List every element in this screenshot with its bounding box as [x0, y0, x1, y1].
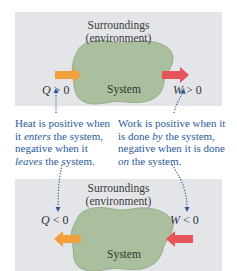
work-symbol: W — [173, 83, 183, 97]
surroundings-line2: (environment) — [15, 195, 222, 208]
heat-symbol: Q — [41, 213, 50, 227]
work-caption-line3: negative when it is done — [118, 142, 225, 155]
heat-caption-line1: Heat is positive when — [15, 117, 110, 130]
work-caption-line2: is done by the system, — [118, 130, 225, 143]
heat-sign-top: Q > 0 — [42, 83, 69, 98]
surroundings-line1: Surroundings — [15, 182, 222, 195]
heat-sign-bottom: Q < 0 — [41, 213, 68, 228]
work-caption-line1: Work is positive when it — [118, 117, 225, 130]
surroundings-label-top: Surroundings (environment) — [15, 19, 222, 45]
heat-caption-line4: leaves the system. — [15, 155, 110, 168]
heat-relation: > 0 — [51, 83, 70, 97]
system-label-top: System — [107, 83, 141, 95]
surroundings-line2: (environment) — [15, 32, 222, 45]
heat-relation: < 0 — [50, 213, 69, 227]
heat-caption: Heat is positive when it enters the syst… — [15, 117, 110, 167]
work-caption-line4: on the system. — [118, 155, 225, 168]
work-relation: < 0 — [180, 213, 199, 227]
heat-symbol: Q — [42, 83, 51, 97]
work-sign-top: W > 0 — [173, 83, 202, 98]
work-relation: > 0 — [183, 83, 202, 97]
work-sign-bottom: W < 0 — [170, 213, 199, 228]
work-caption: Work is positive when it is done by the … — [118, 117, 225, 167]
surroundings-label-bottom: Surroundings (environment) — [15, 182, 222, 208]
work-symbol: W — [170, 213, 180, 227]
heat-caption-line3: negative when it — [15, 142, 110, 155]
surroundings-line1: Surroundings — [15, 19, 222, 32]
top-panel-surroundings: Surroundings (environment) System Q > 0 … — [15, 12, 222, 106]
system-blob-bottom — [71, 207, 173, 271]
heat-caption-line2: it enters the system, — [15, 130, 110, 143]
system-label-bottom: System — [107, 248, 141, 260]
bottom-panel-surroundings: Surroundings (environment) System Q < 0 … — [15, 179, 222, 271]
